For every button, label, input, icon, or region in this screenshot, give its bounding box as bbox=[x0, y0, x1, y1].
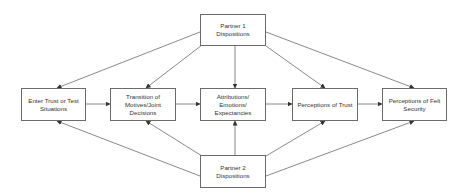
node-perceptions-of-felt-security: Perceptions of Felt Security bbox=[382, 88, 447, 121]
node-label: Enter Trust or Test Situations bbox=[25, 97, 82, 113]
node-attributions-emotions-expectancies: Attributions/ Emotions/ Expectancies bbox=[200, 88, 266, 121]
node-label: Perceptions of Felt Security bbox=[386, 97, 443, 113]
node-label: Perceptions of Trust bbox=[297, 101, 352, 109]
node-partner-2-dispositions: Partner 2 Dispositions bbox=[200, 155, 266, 188]
node-label: Transition of Motives/Joint Decisions bbox=[114, 93, 172, 117]
arrow-p1-to-transition bbox=[146, 45, 202, 88]
arrow-p2-to-felt-security bbox=[266, 121, 414, 176]
node-label: Partner 2 Dispositions bbox=[204, 164, 262, 180]
arrow-p1-to-enter bbox=[57, 32, 200, 88]
arrow-p1-to-trust bbox=[266, 46, 325, 88]
arrow-p2-to-transition bbox=[146, 121, 202, 156]
node-partner-1-dispositions: Partner 1 Dispositions bbox=[200, 14, 266, 46]
arrow-p2-to-trust bbox=[266, 121, 325, 156]
node-perceptions-of-trust: Perceptions of Trust bbox=[292, 88, 358, 121]
node-enter-trust-or-test-situations: Enter Trust or Test Situations bbox=[21, 88, 86, 121]
node-transition-of-motives: Transition of Motives/Joint Decisions bbox=[110, 88, 176, 121]
arrow-p1-to-felt-security bbox=[266, 32, 414, 88]
node-label: Partner 1 Dispositions bbox=[204, 22, 262, 38]
arrow-p2-to-enter bbox=[57, 121, 200, 176]
node-label: Attributions/ Emotions/ Expectancies bbox=[204, 93, 262, 117]
